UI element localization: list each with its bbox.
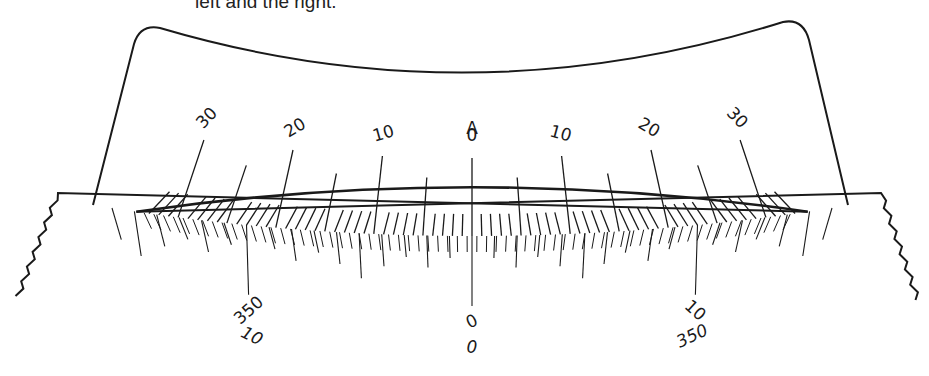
fine-tick	[183, 218, 190, 234]
vernier-scale-tick	[112, 208, 121, 240]
fine-tick	[193, 219, 199, 235]
main-scale-tick	[443, 214, 445, 236]
main-scale-tick	[335, 210, 344, 232]
fine-tick	[506, 236, 507, 252]
fine-tick	[389, 235, 391, 251]
fine-tick	[447, 236, 448, 252]
main-scale-tick	[517, 178, 521, 236]
vernier-scale-tick	[625, 231, 630, 253]
main-scale-tick	[286, 207, 298, 229]
vernier-label-lower: 0	[467, 337, 478, 357]
vernier-label-upper: 0	[462, 310, 480, 333]
vernier-scale-tick	[157, 215, 165, 247]
main-scale-label: 30	[723, 103, 752, 132]
fine-tick	[261, 226, 266, 242]
main-scale-tick	[344, 211, 352, 233]
fine-tick	[649, 229, 653, 245]
fine-tick	[251, 226, 256, 242]
fine-tick	[688, 226, 693, 242]
main-scale-tick	[573, 212, 580, 234]
fine-tick	[173, 217, 180, 233]
vernier-scale-tick	[449, 236, 450, 258]
main-scale-tick	[628, 208, 639, 230]
vernier-scale-tick	[404, 235, 406, 257]
main-scale-tick	[364, 212, 371, 234]
main-scale-tick	[393, 213, 398, 235]
vernier-label-upper: 10	[681, 295, 710, 324]
fine-tick	[534, 235, 535, 251]
fine-tick	[707, 224, 713, 240]
vernier-scale-diagram: 3020100102030103500035010 A	[0, 0, 929, 376]
main-scale-tick	[619, 209, 629, 231]
main-scale-tick	[403, 213, 407, 235]
fine-tick	[144, 213, 151, 229]
fine-tick	[754, 218, 761, 234]
main-scale-tick	[413, 213, 417, 235]
main-scale-tick	[188, 197, 206, 219]
fine-tick	[320, 231, 323, 247]
vernier-scale-tick	[560, 234, 562, 266]
fine-tick	[281, 228, 285, 244]
index-label-a: A	[466, 118, 478, 138]
main-scale-tick	[500, 214, 502, 236]
fine-tick	[611, 232, 614, 248]
fine-tick	[659, 228, 663, 244]
fine-tick	[379, 234, 381, 250]
fine-tick	[232, 224, 238, 240]
main-scale-label: 20	[280, 113, 309, 141]
fine-tick	[630, 230, 634, 246]
fine-tick	[330, 232, 333, 248]
vernier-scale-tick	[134, 211, 141, 256]
vernier-scale-tick	[713, 223, 720, 245]
fine-tick	[418, 235, 419, 251]
fine-tick	[544, 235, 546, 251]
main-scale-tick	[651, 150, 668, 228]
fine-tick	[554, 235, 556, 251]
main-scale-tick	[305, 208, 316, 230]
vernier-scale-tick	[736, 220, 743, 252]
main-scale-tick	[374, 156, 383, 234]
main-scale-tick	[738, 197, 756, 219]
fine-tick	[621, 231, 624, 247]
fine-tick	[408, 235, 409, 251]
vernier-scale-tick	[337, 232, 341, 264]
main-scale-tick	[601, 210, 610, 232]
fine-tick	[369, 234, 371, 250]
main-scale-label: 10	[370, 121, 396, 146]
main-scale-tick	[433, 214, 436, 236]
right-torn-edge	[136, 193, 918, 300]
fine-tick	[678, 226, 683, 242]
main-scale-tick	[462, 214, 463, 236]
fine-tick	[349, 233, 352, 249]
left-torn-edge	[16, 193, 808, 296]
fine-tick	[573, 234, 575, 250]
vernier-scale-tick	[695, 225, 697, 295]
fine-tick	[745, 219, 751, 235]
vernier-scale-tick	[179, 218, 188, 240]
fine-tick	[563, 234, 565, 250]
vernier-scale-tick	[756, 218, 765, 240]
fine-tick	[726, 222, 732, 238]
vernier-scale-tick	[202, 220, 209, 252]
main-scale-tick	[608, 174, 620, 232]
vernier-scale-tick	[604, 232, 608, 264]
main-scale-tick	[384, 212, 390, 234]
fine-tick	[428, 236, 429, 252]
main-scale-tick	[295, 207, 306, 229]
vernier-scale-tick	[382, 234, 384, 266]
main-scale-tick	[582, 211, 590, 233]
vernier-scale-tick	[803, 211, 810, 256]
fine-tick	[438, 236, 439, 252]
main-scale-tick	[481, 214, 482, 236]
main-scale-label: 10	[548, 121, 574, 146]
main-scale-tick	[555, 212, 561, 234]
fine-tick	[291, 229, 295, 245]
vernier-scale-tick	[247, 225, 249, 295]
main-scale-label: 20	[635, 113, 664, 141]
tick-marks	[112, 140, 832, 306]
fine-tick	[340, 232, 343, 248]
fine-tick	[640, 230, 644, 246]
vernier-scale-tick	[494, 236, 495, 258]
main-scale-tick	[592, 211, 600, 233]
main-scale-tick	[562, 156, 571, 234]
